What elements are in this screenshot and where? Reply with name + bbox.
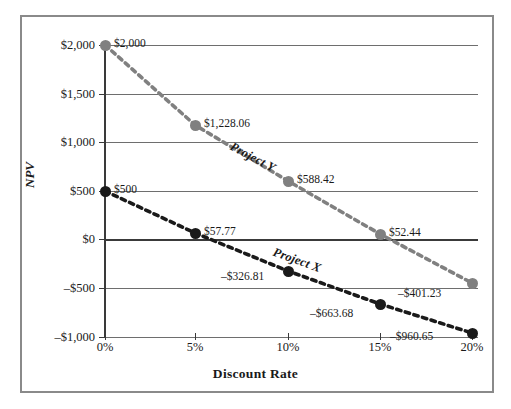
point-label-project-x-1: $57.77 [204, 226, 236, 238]
point-label-project-x-0: $500 [114, 184, 137, 196]
point-label-project-y-0: $2,000 [114, 38, 146, 50]
data-point-project-x-2[interactable] [283, 266, 294, 277]
point-label-project-x-2: –$326.81 [221, 271, 264, 283]
data-point-project-y-2[interactable] [283, 176, 294, 187]
data-point-project-y-1[interactable] [190, 120, 201, 131]
point-label-project-x-4: –$960.65 [390, 331, 433, 343]
series-lines [0, 0, 511, 409]
point-label-project-x-3: –$663.68 [310, 308, 353, 320]
data-point-project-y-3[interactable] [375, 229, 386, 240]
data-point-project-x-3[interactable] [375, 299, 386, 310]
data-point-project-x-1[interactable] [190, 228, 201, 239]
point-label-project-y-2: $588.42 [297, 174, 334, 186]
point-label-project-y-4: –$401.23 [398, 288, 441, 300]
data-point-project-x-0[interactable] [100, 186, 111, 197]
point-label-project-y-1: $1,228.06 [204, 118, 250, 130]
project-y-line [105, 45, 472, 283]
point-label-project-y-3: $52.44 [389, 227, 421, 239]
data-point-project-y-4[interactable] [467, 278, 478, 289]
npv-profile-chart: $2,000 $1,500 $1,000 $500 $0 –$500 –$1,0… [0, 0, 511, 409]
data-point-project-x-4[interactable] [467, 328, 478, 339]
data-point-project-y-0[interactable] [100, 40, 111, 51]
